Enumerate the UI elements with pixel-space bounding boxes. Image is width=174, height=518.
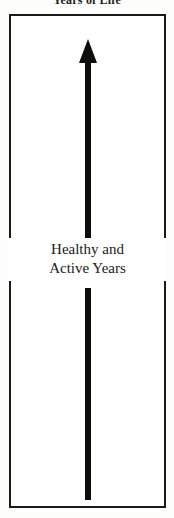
arrow-label-line-2: Active Years <box>9 259 166 278</box>
arrow-label-line-1: Healthy and <box>9 240 166 259</box>
figure-top-caption: Years of Life <box>0 0 174 8</box>
figure-container: Years of Life Healthy and Active Years <box>0 0 174 518</box>
arrow-label: Healthy and Active Years <box>9 238 166 281</box>
